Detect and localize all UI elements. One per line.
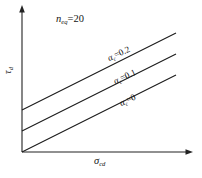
series-line-alpha-0: [22, 75, 176, 152]
plot-area: [0, 0, 202, 178]
figure-container: neq=20 σcd τd αc=0.2 αc=0.1 αc=0: [0, 0, 202, 178]
y-axis-label: τd: [3, 67, 14, 74]
y-axis-arrow-icon: [19, 5, 25, 13]
x-axis-label: σcd: [94, 156, 105, 167]
annotation-n-eq: neq=20: [56, 14, 84, 25]
series-group: [22, 33, 176, 152]
series-line-alpha-0-1: [22, 54, 176, 131]
x-axis-arrow-icon: [186, 149, 194, 155]
series-line-alpha-0-2: [22, 33, 176, 110]
